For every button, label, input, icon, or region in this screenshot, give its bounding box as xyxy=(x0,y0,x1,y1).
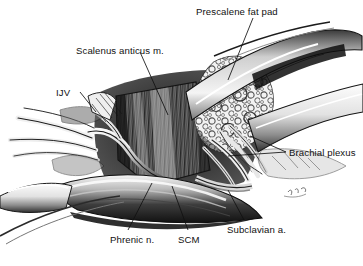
label-ijv: IJV xyxy=(56,88,70,98)
label-brachial-plexus: Brachial plexus xyxy=(289,148,356,158)
label-phrenic-nerve: Phrenic n. xyxy=(110,235,154,245)
label-prescalene-fat-pad: Prescalene fat pad xyxy=(196,7,278,17)
artist-signature xyxy=(284,188,306,197)
anatomical-illustration xyxy=(0,0,363,266)
label-scm: SCM xyxy=(178,235,200,245)
figure-canvas: Prescalene fat pad Scalenus anticus m. I… xyxy=(0,0,363,266)
label-subclavian-artery: Subclavian a. xyxy=(227,225,286,235)
label-scalenus-anticus: Scalenus anticus m. xyxy=(76,46,164,56)
